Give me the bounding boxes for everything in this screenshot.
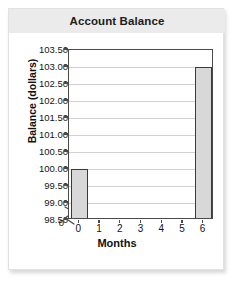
chart-card: Account Balance Balance (dollars) 103.50… <box>8 8 224 270</box>
x-axis-tick-labels: 0123456 <box>68 220 213 236</box>
y-axis-tick-label: 100.00 <box>24 163 68 174</box>
y-axis-tick-labels: 103.50103.00102.50102.00101.50101.00100.… <box>20 49 68 219</box>
gridline <box>69 84 212 85</box>
chart-title: Account Balance <box>9 9 225 33</box>
y-axis-tick-label: 99.50 <box>24 180 68 191</box>
y-axis-tick-label: 102.00 <box>24 95 68 106</box>
gridline <box>69 101 212 102</box>
y-axis-tick-label: 101.00 <box>24 129 68 140</box>
gridline <box>69 135 212 136</box>
x-axis-tick-label: 6 <box>193 223 213 234</box>
x-axis-tick-label: 2 <box>110 223 130 234</box>
y-axis-tick-label: 103.00 <box>24 61 68 72</box>
gridline <box>69 169 212 170</box>
gridline <box>69 67 212 68</box>
y-axis-tick-label: 102.50 <box>24 78 68 89</box>
gridline <box>69 118 212 119</box>
y-axis-origin-label: 0 <box>20 217 64 228</box>
x-axis-title: Months <box>9 237 225 249</box>
gridline <box>69 186 212 187</box>
x-axis-tick-label: 1 <box>89 223 109 234</box>
x-axis-tick-label: 0 <box>68 223 88 234</box>
bar <box>71 169 88 219</box>
chart-title-band: Account Balance <box>9 9 225 33</box>
y-axis-tick-label: 100.50 <box>24 146 68 157</box>
y-axis-tick-label: 103.50 <box>24 44 68 55</box>
plot-area <box>68 49 213 219</box>
x-axis-tick-label: 3 <box>131 223 151 234</box>
y-axis-tick-label: 101.50 <box>24 112 68 123</box>
bar <box>195 67 212 219</box>
y-axis-tick-label: 99.00 <box>24 197 68 208</box>
gridline <box>69 203 212 204</box>
gridline <box>69 152 212 153</box>
x-axis-tick-label: 5 <box>172 223 192 234</box>
x-axis-tick-label: 4 <box>151 223 171 234</box>
